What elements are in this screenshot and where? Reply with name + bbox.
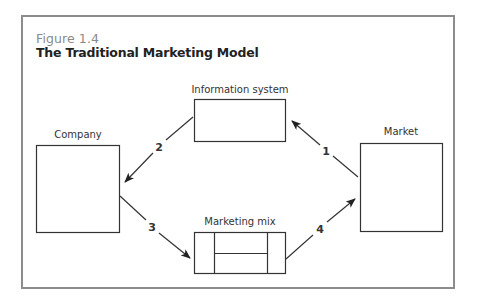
- arrow-2-label: 2: [155, 141, 163, 154]
- market-box: [361, 144, 443, 232]
- arrow-1-label: 1: [322, 145, 330, 158]
- arrow-4: 4: [286, 199, 355, 259]
- arrow-3-label: 3: [148, 221, 156, 234]
- information-system-box: [195, 100, 286, 142]
- arrow-3: 3: [120, 196, 190, 258]
- marketing-mix-box: [195, 233, 286, 274]
- arrow-4-label: 4: [316, 223, 324, 236]
- company-box: [37, 146, 120, 233]
- diagram-canvas: 1 2 3 4: [0, 0, 480, 306]
- arrow-1: 1: [292, 121, 358, 177]
- arrow-2: 2: [125, 117, 193, 182]
